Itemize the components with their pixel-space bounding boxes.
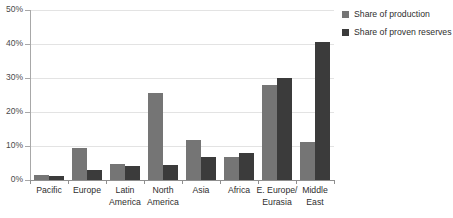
bar-share-of-proven-reserves[interactable] bbox=[277, 78, 292, 180]
chart-legend: Share of productionShare of proven reser… bbox=[342, 5, 452, 41]
plot-area bbox=[30, 10, 334, 180]
bar-share-of-proven-reserves[interactable] bbox=[201, 157, 216, 180]
y-axis-tick-label: 20% bbox=[0, 106, 23, 116]
y-axis-tick-label: 40% bbox=[0, 38, 23, 48]
bar-share-of-production[interactable] bbox=[72, 148, 87, 180]
y-axis-tick bbox=[25, 180, 30, 181]
x-axis-tick bbox=[106, 180, 107, 184]
x-axis-tick bbox=[258, 180, 259, 184]
bar-group bbox=[300, 10, 330, 180]
legend-label: Share of production bbox=[354, 9, 430, 19]
y-axis-tick bbox=[25, 112, 30, 113]
bar-share-of-proven-reserves[interactable] bbox=[125, 166, 140, 180]
bar-share-of-proven-reserves[interactable] bbox=[315, 42, 330, 180]
y-axis-tick-label: 0% bbox=[0, 174, 23, 184]
bar-group bbox=[110, 10, 140, 180]
x-axis-category-label: Middle East bbox=[292, 185, 338, 208]
x-axis-tick bbox=[296, 180, 297, 184]
x-axis-tick bbox=[220, 180, 221, 184]
y-axis-tick bbox=[25, 10, 30, 11]
y-axis-tick-label: 30% bbox=[0, 72, 23, 82]
bar-share-of-production[interactable] bbox=[110, 164, 125, 180]
legend-swatch-icon bbox=[342, 11, 349, 18]
bar-group bbox=[186, 10, 216, 180]
x-axis-tick bbox=[334, 180, 335, 184]
x-axis-tick bbox=[68, 180, 69, 184]
bar-share-of-production[interactable] bbox=[186, 140, 201, 180]
legend-swatch-icon bbox=[342, 29, 349, 36]
bar-share-of-production[interactable] bbox=[224, 157, 239, 180]
bar-group bbox=[262, 10, 292, 180]
x-axis-tick bbox=[144, 180, 145, 184]
bar-share-of-proven-reserves[interactable] bbox=[163, 165, 178, 180]
legend-item[interactable]: Share of proven reserves bbox=[342, 23, 452, 41]
bar-share-of-proven-reserves[interactable] bbox=[239, 153, 254, 180]
y-axis-tick bbox=[25, 146, 30, 147]
legend-label: Share of proven reserves bbox=[354, 27, 452, 37]
bar-group bbox=[148, 10, 178, 180]
y-axis-tick bbox=[25, 44, 30, 45]
bar-chart: PacificEuropeLatin AmericaNorth AmericaA… bbox=[0, 0, 453, 218]
bar-share-of-proven-reserves[interactable] bbox=[87, 170, 102, 180]
bar-group bbox=[224, 10, 254, 180]
y-axis-line bbox=[30, 10, 31, 181]
bar-group bbox=[72, 10, 102, 180]
x-axis-tick bbox=[182, 180, 183, 184]
bar-share-of-production[interactable] bbox=[148, 93, 163, 180]
y-axis-tick-label: 10% bbox=[0, 140, 23, 150]
bar-share-of-production[interactable] bbox=[300, 142, 315, 180]
y-axis-tick bbox=[25, 78, 30, 79]
bar-share-of-production[interactable] bbox=[262, 85, 277, 180]
legend-item[interactable]: Share of production bbox=[342, 5, 452, 23]
bar-group bbox=[34, 10, 64, 180]
y-axis-tick-label: 50% bbox=[0, 4, 23, 14]
x-axis-tick bbox=[30, 180, 31, 184]
